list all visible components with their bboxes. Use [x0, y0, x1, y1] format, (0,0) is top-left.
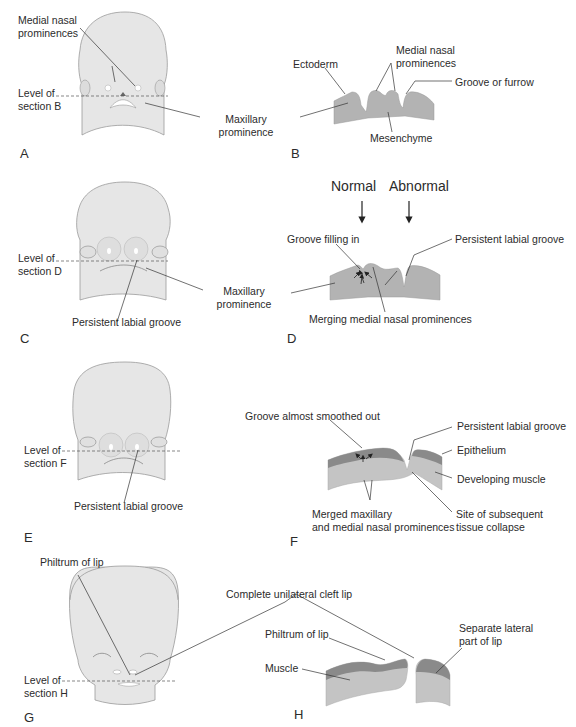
label-f-merged-2: and medial nasal prominences [312, 521, 454, 533]
label-f-persistent: Persistent labial groove [457, 420, 566, 432]
label-a-medial-nasal-1: Medial nasal [18, 14, 77, 26]
panel-letter-h: H [294, 707, 303, 722]
embryo-head-e [62, 362, 180, 503]
panel-letter-c: C [20, 331, 29, 346]
section-h [296, 594, 462, 706]
label-h-separate-1: Separate lateral [459, 622, 533, 634]
label-c-level-1: Level of [18, 252, 55, 264]
label-h-philtrum: Philtrum of lip [265, 628, 329, 640]
cleft-lip-figure [0, 0, 576, 727]
label-b-mesenchyme: Mesenchyme [370, 132, 432, 144]
label-a-maxillary-2: prominence [212, 126, 280, 138]
label-h-muscle: Muscle [265, 662, 298, 674]
label-f-smoothed: Groove almost smoothed out [245, 410, 380, 422]
panel-letter-f: F [290, 534, 298, 549]
label-g-cleft: Complete unilateral cleft lip [226, 588, 352, 600]
label-a-level-1: Level of [18, 87, 55, 99]
label-f-muscle: Developing muscle [457, 473, 546, 485]
label-d-persistent: Persistent labial groove [455, 233, 564, 245]
panel-letter-d: D [287, 331, 296, 346]
label-a-level-2: section B [18, 100, 61, 112]
label-d-merging: Merging medial nasal prominences [309, 313, 472, 325]
panel-letter-b: B [291, 146, 300, 161]
panel-letter-g: G [24, 710, 34, 725]
label-g-level-2: section H [24, 687, 68, 699]
label-e-level-1: Level of [24, 444, 61, 456]
label-b-groove: Groove or furrow [455, 76, 534, 88]
section-f [328, 420, 452, 512]
label-b-ectoderm: Ectoderm [293, 58, 338, 70]
embryo-head-c [56, 182, 203, 322]
label-c-level-2: section D [18, 265, 62, 277]
label-f-collapse-1: Site of subsequent [456, 508, 543, 520]
label-c-maxillary-2: prominence [210, 298, 278, 310]
label-f-merged-1: Merged maxillary [312, 508, 392, 520]
section-d [291, 201, 452, 312]
label-d-normal: Normal [331, 178, 376, 194]
label-g-philtrum: Philtrum of lip [40, 556, 104, 568]
label-c-persistent: Persistent labial groove [72, 316, 181, 328]
label-b-medial-nasal-2: prominences [396, 57, 456, 69]
label-e-persistent: Persistent labial groove [74, 500, 183, 512]
section-b [300, 63, 452, 132]
label-d-groove-filling: Groove filling in [287, 233, 359, 245]
fetal-head-g [62, 566, 296, 705]
label-f-epithelium: Epithelium [457, 444, 506, 456]
label-a-medial-nasal-2: prominences [18, 27, 78, 39]
panel-letter-a: A [20, 146, 29, 161]
label-g-level-1: Level of [24, 674, 61, 686]
label-a-maxillary-1: Maxillary [212, 113, 280, 125]
label-b-medial-nasal-1: Medial nasal [396, 44, 455, 56]
label-h-separate-2: part of lip [459, 635, 502, 647]
panel-letter-e: E [24, 530, 33, 545]
label-f-collapse-2: tissue collapse [456, 521, 525, 533]
label-e-level-2: section F [24, 457, 67, 469]
label-c-maxillary-1: Maxillary [210, 285, 278, 297]
label-d-abnormal: Abnormal [389, 178, 449, 194]
